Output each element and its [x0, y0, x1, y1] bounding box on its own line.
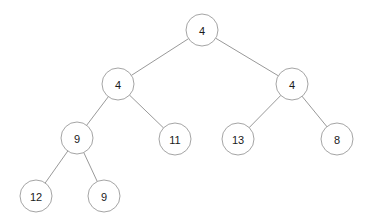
node-label: 12 [30, 191, 42, 203]
node-label: 4 [115, 79, 121, 91]
node-label: 8 [334, 134, 340, 146]
binary-tree-diagram: 444911138129 [0, 0, 365, 224]
tree-edge [302, 96, 327, 126]
tree-edge [131, 39, 188, 76]
tree-node[interactable]: 9 [88, 180, 120, 212]
node-label: 9 [101, 191, 107, 203]
node-label: 4 [289, 79, 295, 91]
tree-canvas: 444911138129 [0, 0, 365, 224]
tree-node[interactable]: 13 [222, 123, 254, 155]
tree-edge [216, 38, 279, 76]
edge-layer [45, 38, 327, 183]
tree-edge [130, 95, 164, 128]
tree-node[interactable]: 11 [159, 123, 191, 155]
tree-node[interactable]: 8 [321, 123, 353, 155]
node-label: 4 [199, 25, 205, 37]
tree-edge [87, 97, 109, 126]
tree-edge [45, 151, 68, 183]
tree-node[interactable]: 4 [276, 68, 308, 100]
tree-node[interactable]: 4 [102, 68, 134, 100]
node-label: 9 [74, 133, 80, 145]
node-label: 11 [169, 134, 180, 146]
node-layer: 444911138129 [20, 14, 353, 212]
tree-node[interactable]: 4 [186, 14, 218, 46]
tree-edge [84, 153, 98, 182]
node-label: 13 [232, 134, 244, 146]
tree-node[interactable]: 12 [20, 180, 52, 212]
tree-edge [249, 95, 281, 127]
tree-node[interactable]: 9 [61, 122, 93, 154]
